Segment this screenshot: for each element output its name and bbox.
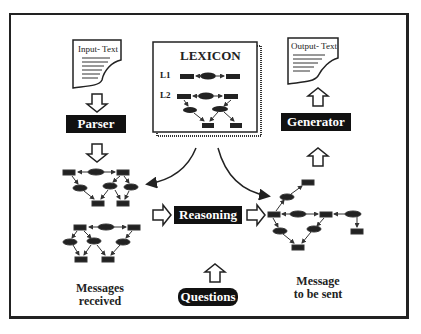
input-text-title: Input- Text: [78, 44, 118, 54]
message-to-be-sent-graph: [268, 180, 363, 250]
lexicon-l2-label: L2: [160, 90, 171, 100]
lexicon-l1-label: L1: [160, 70, 171, 80]
lexicon-title: LEXICON: [180, 48, 241, 64]
questions-box: Questions: [178, 288, 238, 306]
reasoning-box: Reasoning: [174, 206, 242, 224]
messages-received-graph-2: [63, 224, 140, 262]
messages-received-caption: Messages received: [60, 282, 140, 308]
output-text-title: Output- Text: [291, 41, 337, 51]
message-to-be-sent-caption: Message to be sent: [278, 275, 358, 301]
generator-box: Generator: [281, 113, 351, 131]
messages-received-graph-1: [63, 169, 138, 206]
parser-box: Parser: [66, 115, 126, 133]
